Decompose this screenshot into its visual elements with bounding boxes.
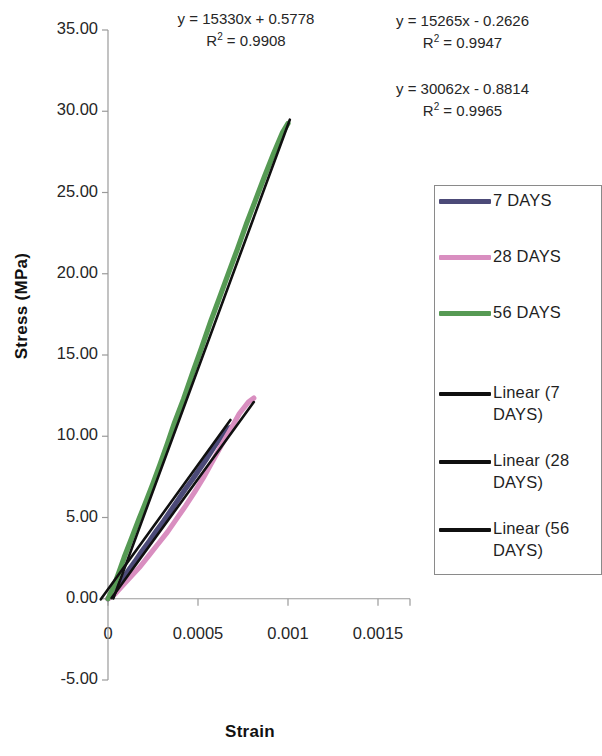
y-tick-label: 35.00	[6, 19, 98, 38]
legend-label: 56 DAYS	[493, 302, 561, 324]
y-tick-label: 10.00	[6, 425, 98, 444]
x-tick-label: 0.0005	[153, 624, 243, 643]
y-tick-label: -5.00	[6, 669, 98, 688]
y-tick-label: 25.00	[6, 182, 98, 201]
series-line-7-days	[108, 427, 230, 598]
equation-annotation-7days: y = 15330x + 0.5778 R2 = 0.9908	[141, 8, 351, 52]
legend-swatch	[439, 460, 491, 464]
trendline-linear-7-days	[101, 420, 231, 599]
y-tick-label: 5.00	[6, 507, 98, 526]
equation-annotation-56days: y = 30062x - 0.8814 R2 = 0.9965	[350, 78, 575, 122]
x-tick-label: 0.001	[243, 624, 333, 643]
series-line-28-days	[108, 398, 254, 599]
x-tick-label: 0	[63, 624, 153, 643]
legend-label: 7 DAYS	[493, 190, 552, 212]
legend-item[interactable]: Linear (56 DAYS)	[439, 518, 602, 562]
legend-swatch	[439, 255, 491, 260]
equation-annotation-28days: y = 15265x - 0.2626 R2 = 0.9947	[350, 10, 575, 54]
trendline-linear-28-days	[112, 402, 254, 598]
legend-label: Linear (7 DAYS)	[493, 382, 560, 426]
legend-item[interactable]: Linear (7 DAYS)	[439, 382, 602, 426]
legend-item[interactable]: 28 DAYS	[439, 246, 602, 268]
x-tick-label: 0.0015	[333, 624, 423, 643]
r2-text-7days: R2 = 0.9908	[141, 30, 351, 52]
equation-text-7days: y = 15330x + 0.5778	[178, 10, 315, 27]
x-axis-title: Strain	[160, 722, 340, 742]
equation-text-28days: y = 15265x - 0.2626	[396, 12, 529, 29]
legend-swatch	[439, 392, 491, 396]
y-tick-label: 20.00	[6, 263, 98, 282]
legend-label: Linear (28 DAYS)	[493, 450, 569, 494]
series-line-56-days	[108, 123, 288, 598]
y-tick-label: 30.00	[6, 100, 98, 119]
chart-legend: 7 DAYS28 DAYS56 DAYSLinear (7 DAYS)Linea…	[434, 185, 602, 575]
legend-swatch	[439, 311, 491, 316]
r2-text-28days: R2 = 0.9947	[350, 32, 575, 54]
y-axis-title: Stress (MPa)	[12, 221, 32, 391]
y-tick-label: 15.00	[6, 344, 98, 363]
y-tick-label: 0.00	[6, 588, 98, 607]
legend-item[interactable]: 56 DAYS	[439, 302, 602, 324]
legend-swatch	[439, 199, 491, 204]
equation-text-56days: y = 30062x - 0.8814	[396, 80, 529, 97]
r2-text-56days: R2 = 0.9965	[350, 100, 575, 122]
legend-item[interactable]: 7 DAYS	[439, 190, 602, 212]
legend-label: 28 DAYS	[493, 246, 561, 268]
trendline-linear-56-days	[113, 120, 289, 599]
legend-swatch	[439, 528, 491, 532]
legend-label: Linear (56 DAYS)	[493, 518, 569, 562]
legend-item[interactable]: Linear (28 DAYS)	[439, 450, 602, 494]
